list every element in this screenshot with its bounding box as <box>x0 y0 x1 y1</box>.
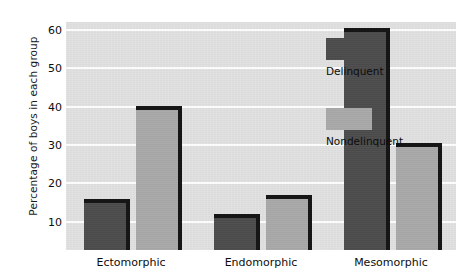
y-tick-label: 50 <box>38 62 62 75</box>
y-tick-label: 60 <box>38 23 62 36</box>
bar-side-shadow <box>126 199 130 250</box>
bar-ectomorphic-delinquent <box>84 203 126 250</box>
bar-face <box>396 147 438 250</box>
bar-endomorphic-nondelinquent <box>266 199 308 250</box>
bar-side-shadow <box>178 106 182 250</box>
y-tick-label: 40 <box>38 100 62 113</box>
bar-chart: Percentage of boys in each group 10 20 3… <box>0 0 463 279</box>
bar-mesomorphic-nondelinquent <box>396 147 438 250</box>
legend-label-nondelinquent: Nondelinquent <box>326 135 403 147</box>
legend-swatch-nondelinquent <box>326 108 372 130</box>
x-tick-label: Endomorphic <box>225 256 298 269</box>
bar-side-shadow <box>256 214 260 250</box>
y-axis-ticks: 10 20 30 40 50 60 <box>32 22 62 250</box>
plot-area: Delinquent Nondelinquent <box>66 22 456 250</box>
bar-endomorphic-delinquent <box>214 218 256 250</box>
gridline <box>66 29 456 31</box>
y-tick-label: 30 <box>38 139 62 152</box>
bar-side-shadow <box>438 143 442 250</box>
bar-ectomorphic-nondelinquent <box>136 110 178 250</box>
legend-swatch-delinquent <box>326 38 372 60</box>
legend-item-delinquent: Delinquent <box>326 38 384 77</box>
y-tick-label: 10 <box>38 215 62 228</box>
bar-face <box>266 199 308 250</box>
legend-label-delinquent: Delinquent <box>326 65 384 77</box>
gridline <box>66 67 456 69</box>
bar-side-shadow <box>308 195 312 250</box>
y-tick-label: 20 <box>38 177 62 190</box>
bar-face <box>214 218 256 250</box>
x-tick-label: Mesomorphic <box>354 256 428 269</box>
legend-item-nondelinquent: Nondelinquent <box>326 108 403 147</box>
bar-face <box>136 110 178 250</box>
bar-face <box>84 203 126 250</box>
x-tick-label: Ectomorphic <box>96 256 165 269</box>
